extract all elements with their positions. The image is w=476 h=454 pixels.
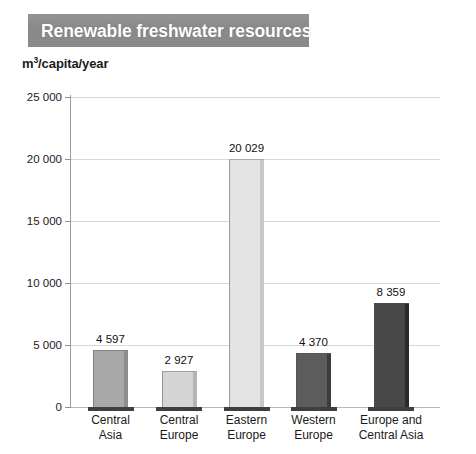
y-axis-tick-label: 15 000	[27, 215, 62, 227]
bar-base-shadow	[156, 407, 202, 411]
x-axis-category-label: CentralAsia	[91, 413, 130, 443]
category-label-line: Central	[91, 413, 130, 428]
y-axis-tick	[65, 407, 71, 408]
y-axis-tick-label: 20 000	[27, 153, 62, 165]
category-label-line: Europe	[160, 428, 199, 443]
y-axis-line	[70, 95, 71, 408]
category-label-line: Central Asia	[359, 428, 424, 443]
bar-right-edge	[405, 304, 409, 407]
y-axis-tick-label: 25 000	[27, 91, 62, 103]
bar-4[interactable]	[296, 353, 331, 407]
category-label-line: Asia	[91, 428, 130, 443]
bar-face	[230, 160, 264, 407]
y-axis-tick	[65, 345, 71, 346]
bar-1[interactable]	[93, 350, 128, 407]
y-axis-tick	[65, 221, 71, 222]
category-label-line: Eastern	[226, 413, 267, 428]
bar-2[interactable]	[162, 371, 197, 407]
category-label-line: Central	[160, 413, 199, 428]
x-axis-category-label: Europe andCentral Asia	[359, 413, 424, 443]
bar-value-label: 20 029	[229, 142, 264, 154]
category-label-line: Europe	[226, 428, 267, 443]
category-label-line: Western	[291, 413, 335, 428]
bar-5[interactable]	[374, 303, 409, 407]
bar-face	[297, 354, 331, 407]
y-axis-tick-label: 10 000	[27, 277, 62, 289]
bar-right-edge	[260, 160, 264, 407]
bar-right-edge	[124, 351, 128, 407]
bar-base-shadow	[224, 407, 270, 411]
x-axis-category-label: WesternEurope	[291, 413, 335, 443]
bar-right-edge	[193, 372, 197, 407]
x-axis-category-label: EasternEurope	[226, 413, 267, 443]
category-label-line: Europe	[291, 428, 335, 443]
bar-face	[163, 372, 197, 407]
bar-face	[375, 304, 409, 407]
bar-base-shadow	[291, 407, 337, 411]
y-axis-tick	[65, 283, 71, 284]
category-label-line: Europe and	[359, 413, 424, 428]
bar-chart-plot-area: 05 00010 00015 00020 00025 000 4 5972 92…	[0, 0, 476, 454]
y-axis-tick	[65, 97, 71, 98]
bar-3[interactable]	[229, 159, 264, 407]
bar-value-label: 8 359	[377, 286, 406, 298]
bar-base-shadow	[368, 407, 414, 411]
bar-value-label: 2 927	[165, 354, 194, 366]
bar-base-shadow	[88, 407, 134, 411]
bar-right-edge	[327, 354, 331, 407]
x-axis-category-label: CentralEurope	[160, 413, 199, 443]
bar-value-label: 4 370	[299, 336, 328, 348]
y-axis-tick	[65, 159, 71, 160]
gridline	[71, 97, 440, 98]
y-axis-tick-label: 5 000	[33, 339, 62, 351]
bar-face	[94, 351, 128, 407]
y-axis-tick-label: 0	[56, 401, 62, 413]
bar-value-label: 4 597	[96, 333, 125, 345]
